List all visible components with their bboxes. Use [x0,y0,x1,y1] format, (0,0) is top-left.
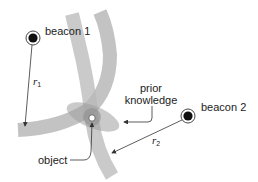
prior-label-line2: knowledge [120,95,182,106]
localization-diagram: beacon 1 beacon 2 r1 r2 prior knowledge … [0,0,258,182]
beacon-2-label: beacon 2 [201,102,246,113]
beacon-1-icon [26,31,40,45]
r2-radius-line [112,120,182,153]
r1-radius-line [25,45,32,126]
object-point [89,115,95,121]
prior-knowledge-leader [124,106,152,122]
r1-label: r1 [33,76,41,88]
beacon-1-label: beacon 1 [45,26,90,37]
beacon-2-icon [181,109,195,123]
r2-label: r2 [152,135,160,147]
object-label: object [38,155,67,166]
prior-label-line1: prior [126,83,176,94]
